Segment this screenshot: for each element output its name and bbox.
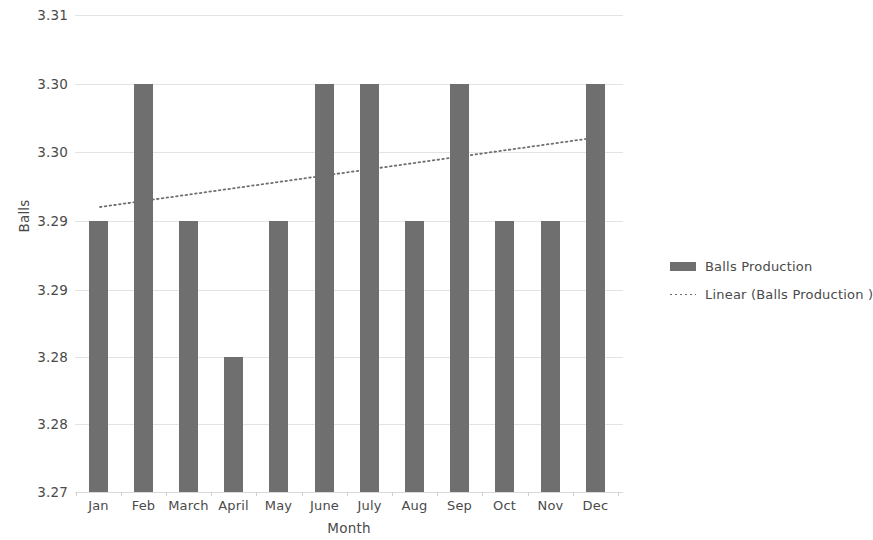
gridline-3.30 <box>75 84 623 85</box>
legend-label-linear-trendline: Linear (Balls Production ) <box>705 287 873 302</box>
bar-may[interactable] <box>269 221 288 492</box>
y-tick-label: 3.28 <box>4 417 68 431</box>
x-tick-mark <box>121 492 122 496</box>
y-tick-label: 3.31 <box>4 8 68 22</box>
gridline-3.31 <box>75 15 623 16</box>
y-tick-label: 3.27 <box>4 485 68 499</box>
bar-oct[interactable] <box>495 221 514 492</box>
y-tick-label: 3.28 <box>4 350 68 364</box>
x-tick-mark <box>618 492 619 496</box>
legend-swatch-bar-icon <box>670 262 696 271</box>
legend-item-balls-production[interactable]: Balls Production <box>670 252 866 280</box>
trendline-path <box>100 137 600 207</box>
legend-swatch-dotted-line-icon <box>670 290 696 299</box>
plot-area <box>75 15 623 492</box>
x-axis-line <box>75 492 623 493</box>
bar-jan[interactable] <box>89 221 108 492</box>
y-tick-label: 3.29 <box>4 214 68 228</box>
x-tick-mark <box>392 492 393 496</box>
x-tick-mark <box>211 492 212 496</box>
x-tick-mark <box>482 492 483 496</box>
y-tick-label: 3.30 <box>4 145 68 159</box>
y-axis-tick-labels: 3.313.303.303.293.293.283.283.27 <box>0 0 68 540</box>
x-tick-mark <box>573 492 574 496</box>
bar-feb[interactable] <box>134 84 153 492</box>
x-tick-mark <box>437 492 438 496</box>
bar-july[interactable] <box>360 84 379 492</box>
bar-march[interactable] <box>179 221 198 492</box>
y-tick-label: 3.30 <box>4 77 68 91</box>
x-tick-label: Dec <box>564 498 628 513</box>
bar-april[interactable] <box>224 357 243 492</box>
x-tick-mark <box>256 492 257 496</box>
x-tick-mark <box>347 492 348 496</box>
x-tick-mark <box>528 492 529 496</box>
bar-dec[interactable] <box>586 84 605 492</box>
chart-legend: Balls Production Linear (Balls Productio… <box>670 252 866 308</box>
bar-june[interactable] <box>315 84 334 492</box>
x-axis-title: Month <box>75 520 623 536</box>
gridline-3.30 <box>75 152 623 153</box>
legend-label-balls-production: Balls Production <box>705 259 812 274</box>
bar-sep[interactable] <box>450 84 469 492</box>
x-tick-mark <box>76 492 77 496</box>
bar-aug[interactable] <box>405 221 424 492</box>
legend-item-linear-trendline[interactable]: Linear (Balls Production ) <box>670 280 866 308</box>
x-tick-mark <box>302 492 303 496</box>
x-tick-mark <box>166 492 167 496</box>
bar-nov[interactable] <box>541 221 560 492</box>
y-tick-label: 3.29 <box>4 283 68 297</box>
